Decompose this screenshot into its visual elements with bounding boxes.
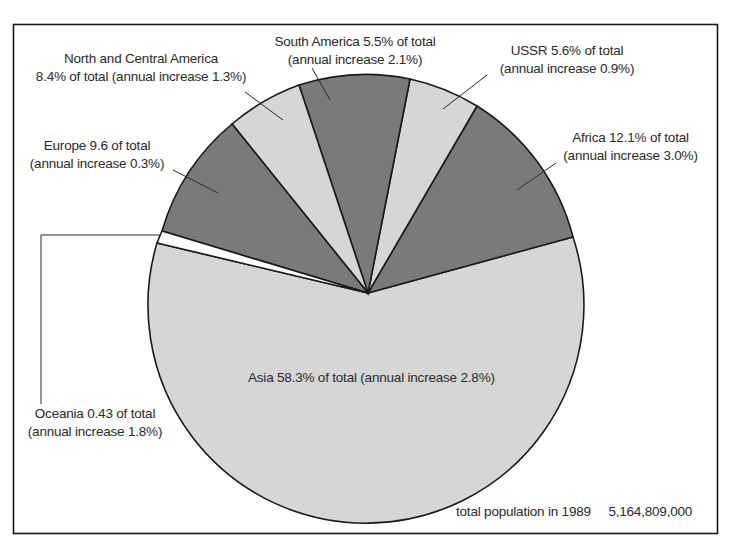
label-ussr: USSR 5.6% of total (annual increase 0.9%…: [482, 42, 652, 78]
label-north-central-america-line2: 8.4% of total (annual increase 1.3%): [26, 68, 256, 86]
label-south-america: South America 5.5% of total (annual incr…: [255, 33, 455, 69]
label-oceania: Oceania 0.43 of total (annual increase 1…: [20, 405, 170, 441]
label-oceania-line2: (annual increase 1.8%): [20, 423, 170, 441]
label-north-central-america: North and Central America 8.4% of total …: [26, 50, 256, 86]
leader-oceania: [41, 235, 160, 404]
label-europe: Europe 9.6 of total (annual increase 0.3…: [22, 137, 172, 173]
label-europe-line2: (annual increase 0.3%): [22, 155, 172, 173]
label-asia: Asia 58.3% of total (annual increase 2.8…: [248, 369, 528, 387]
footer-total-population: total population in 1989 5,164,809,000: [456, 503, 712, 521]
label-south-america-line2: (annual increase 2.1%): [255, 51, 455, 69]
label-africa-line1: Africa 12.1% of total: [553, 129, 708, 147]
label-ussr-line1: USSR 5.6% of total: [482, 42, 652, 60]
label-ussr-line2: (annual increase 0.9%): [482, 60, 652, 78]
label-south-america-line1: South America 5.5% of total: [255, 33, 455, 51]
label-africa-line2: (annual increase 3.0%): [553, 147, 708, 165]
label-north-central-america-line1: North and Central America: [26, 50, 256, 68]
label-oceania-line1: Oceania 0.43 of total: [20, 405, 170, 423]
label-asia-line1: Asia 58.3% of total (annual increase 2.8…: [248, 369, 528, 387]
label-africa: Africa 12.1% of total (annual increase 3…: [553, 129, 708, 165]
label-europe-line1: Europe 9.6 of total: [22, 137, 172, 155]
footer-value: 5,164,809,000: [608, 504, 692, 519]
footer-label: total population in 1989: [456, 504, 591, 519]
